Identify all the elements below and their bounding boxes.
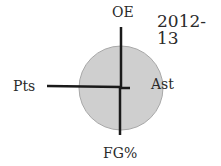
label-ast: Ast <box>151 77 174 91</box>
label-fg: FG% <box>103 146 137 160</box>
axis-pts <box>47 86 121 87</box>
chart-title: 2012-13 <box>157 13 221 47</box>
label-oe: OE <box>112 5 134 19</box>
label-pts: Pts <box>13 79 35 93</box>
